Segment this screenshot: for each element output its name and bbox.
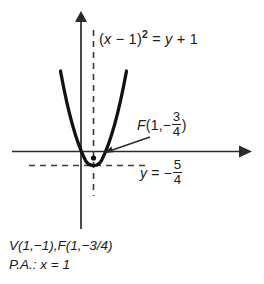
directrix-equals-sign: =	[147, 165, 164, 181]
directrix-label: y = −54	[140, 158, 183, 186]
directrix-minus-sign: −	[164, 165, 172, 181]
y-axis	[75, 11, 87, 229]
parabola-figure: (x − 1)2 = y + 1 F(1,−34) y = −54 V(1,−1…	[0, 0, 264, 284]
directrix-fraction: 54	[173, 158, 183, 186]
focus-close-paren: )	[182, 117, 187, 133]
focus-x-value: 1	[151, 117, 159, 133]
figure-caption: V(1,−1),F(1,−3/4) P.A.: x = 1	[9, 236, 113, 274]
focus-label: F(1,−34)	[137, 110, 187, 138]
directrix-fraction-denominator: 4	[173, 172, 183, 187]
caption-line-vertex-focus: V(1,−1),F(1,−3/4)	[9, 236, 113, 255]
focus-minus-sign: −	[163, 117, 171, 133]
caption-line-axis: P.A.: x = 1	[9, 255, 113, 274]
equation-label: (x − 1)2 = y + 1	[99, 29, 198, 47]
focus-point	[91, 155, 96, 160]
equation-plus-sign: +	[173, 31, 190, 47]
equation-minus-sign: −	[111, 31, 128, 47]
equation-one: 1	[129, 31, 137, 47]
x-axis	[12, 146, 252, 158]
equation-equals-sign: =	[148, 31, 165, 47]
focus-fraction: 34	[172, 110, 182, 138]
equation-rhs-constant: 1	[190, 31, 198, 47]
focus-fraction-denominator: 4	[172, 124, 182, 139]
directrix-fraction-numerator: 5	[173, 158, 183, 172]
equation-variable-y: y	[165, 31, 172, 47]
focus-fraction-numerator: 3	[172, 110, 182, 124]
focus-point-name: F	[137, 117, 146, 133]
